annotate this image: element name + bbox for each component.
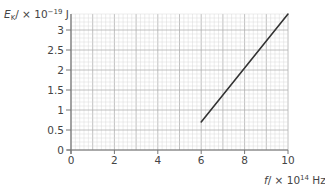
x-axis-label: f/ × 1014 Hz xyxy=(264,174,325,186)
x-tick-label: 2 xyxy=(111,154,118,166)
y-axis-label: EK/ × 10−19 J xyxy=(4,8,69,22)
y-tick-label: 1 xyxy=(57,104,64,116)
x-tick-label: 10 xyxy=(281,154,294,166)
y-tick-label: 0.5 xyxy=(47,124,64,136)
chart: 024681000.511.522.53 EK/ × 10−19 J f/ × … xyxy=(0,0,325,193)
x-tick-label: 6 xyxy=(198,154,205,166)
axes xyxy=(66,14,288,154)
x-tick-label: 8 xyxy=(241,154,248,166)
y-tick-label: 3 xyxy=(57,24,64,36)
grid xyxy=(71,14,288,150)
y-tick-label: 1.5 xyxy=(47,84,64,96)
y-tick-label: 0 xyxy=(57,144,64,156)
y-tick-label: 2.5 xyxy=(47,44,64,56)
x-tick-label: 0 xyxy=(68,154,75,166)
y-tick-label: 2 xyxy=(57,64,64,76)
x-tick-label: 4 xyxy=(154,154,161,166)
